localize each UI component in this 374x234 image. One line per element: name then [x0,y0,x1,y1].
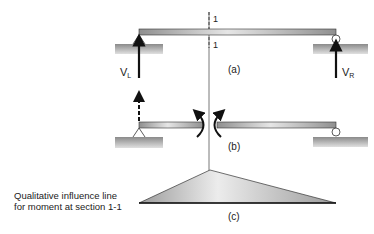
roller-support-icon-b [332,128,340,136]
right-reaction-label: VR [342,66,354,79]
caption-line-2: for moment at section 1-1 [14,201,122,212]
left-ground-b [115,137,163,148]
part-c-label: (c) [228,211,240,222]
roller-support-icon [332,35,340,43]
section-label-bottom: 1 [213,40,218,50]
left-reaction-label: VL [120,66,131,79]
part-c-influence-line: (c) [139,170,336,222]
right-ground-b [313,137,368,147]
influence-line-caption: Qualitative influence line for moment at… [14,190,122,212]
caption-line-1: Qualitative influence line [14,190,122,201]
part-b-beam: (b) [115,96,368,152]
part-a-label: (a) [228,64,240,75]
part-b-label: (b) [228,141,240,152]
pin-support-icon-b [133,128,145,137]
right-ground [313,44,368,54]
section-label-top: 1 [213,14,218,24]
part-a-beam: VL VR (a) [115,29,368,79]
